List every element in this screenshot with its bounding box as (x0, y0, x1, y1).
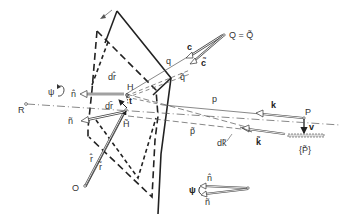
label-H: H (127, 82, 134, 92)
dr-vector (119, 94, 129, 112)
label-c-tilde: c̃ (201, 57, 207, 68)
label-p: p (212, 94, 217, 104)
vector-r (84, 111, 126, 187)
point-P (288, 117, 324, 137)
label-v: v (309, 122, 314, 132)
label-H-tilde: H̃ (123, 119, 130, 129)
label-P-tilde: {P̃} (299, 145, 311, 155)
label-dr-top: dr̂ (108, 71, 116, 82)
label-dr: dr̄ (105, 101, 113, 111)
label-inset-n-tilde: ñ (205, 197, 210, 207)
label-r-hat: r̂ (89, 153, 93, 164)
label-psi: ψ (48, 87, 54, 97)
reflection-diagram: Q = Q̃ c c̃ q q̃ p p̃ k k̃ dk̃ P {P̃} v … (0, 0, 340, 214)
label-Q: Q = Q̃ (229, 30, 253, 40)
vector-k (256, 110, 303, 118)
label-c: c (187, 42, 192, 52)
rotation-arrow-icon (100, 10, 112, 19)
label-k: k (271, 100, 277, 110)
inset-normals (199, 183, 249, 197)
label-t: t (129, 96, 132, 106)
psi-rotation-icon (57, 84, 64, 96)
label-O: O (72, 183, 79, 193)
vector-n-tilde (81, 112, 124, 123)
dk-pointer (227, 134, 232, 141)
label-q-tilde: q̃ (180, 72, 185, 82)
vector-n-hat (80, 91, 124, 98)
label-n-hat: n̂ (71, 89, 76, 99)
label-P: P (305, 107, 311, 117)
label-q: q (166, 56, 171, 66)
label-R: R (18, 105, 25, 115)
label-inset-psi: ψ (189, 185, 196, 195)
label-k-tilde: k̃ (256, 136, 262, 147)
label-inset-n-hat: n̂ (207, 173, 212, 183)
label-p-tilde: p̃ (190, 126, 195, 136)
label-n-tilde: ñ (68, 116, 73, 126)
label-r-tilde: r̃ (98, 161, 103, 172)
label-dk: dk̃ (217, 138, 227, 148)
vector-k-tilde (240, 125, 285, 134)
